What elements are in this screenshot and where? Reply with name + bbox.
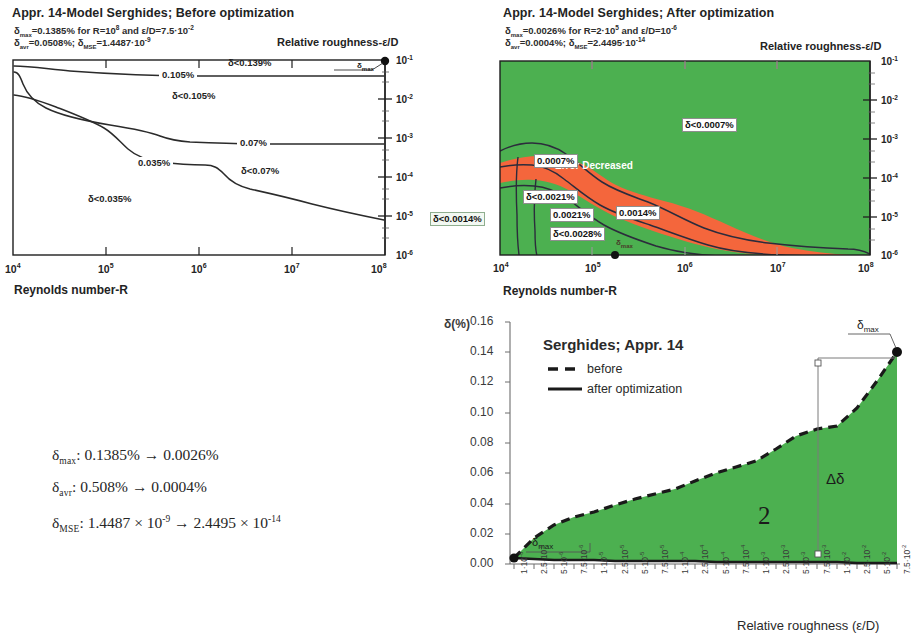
bottom-ytick-1: 0.02 xyxy=(470,526,493,540)
after-ytick-2: 10-3 xyxy=(881,133,898,145)
bottom-ytick-2: 0.04 xyxy=(470,496,493,510)
before-label-lt0139: δ<0.139% xyxy=(228,57,272,68)
bottom-delta-diff-annotation: Δδ xyxy=(826,470,844,487)
stats-exp-2: -9 xyxy=(145,36,151,43)
after-delta-avr-subscript: avr xyxy=(511,44,520,50)
before-y-axis-title: Relative roughness-ε/D xyxy=(277,36,398,48)
summary-dmse-exp1: -9 xyxy=(162,514,170,524)
summary-dmse-a: : 1.4487 × 10 xyxy=(79,514,162,531)
summary-dmse-b: → 2.4495 × 10 xyxy=(170,514,268,531)
stats-text-1a: =0.1385% for R=10 xyxy=(32,25,116,36)
after-ytick-3: 10-4 xyxy=(881,172,898,184)
before-ytick-2: 10-3 xyxy=(396,132,413,144)
bottom-ytick-3: 0.06 xyxy=(470,465,493,479)
bottom-xtick-13: 2.5·10-3 xyxy=(780,545,791,574)
before-dmax-subscript: max xyxy=(362,66,374,72)
before-xtick-0: 104 xyxy=(5,262,21,275)
bottom-xtick-18: 5·10-2 xyxy=(881,552,892,574)
after-stats-text-1a: =0.0026% for R=2·10 xyxy=(523,25,615,36)
stats-text-1b: and ε/D=7.5·10 xyxy=(119,25,188,36)
bottom-xtick-4: 1·10-5 xyxy=(598,552,609,574)
panel-after-stats-line2: δavr=0.0004%; δMSE=2.4495·10-14 xyxy=(505,36,645,50)
after-label-0014: 0.0014% xyxy=(616,206,660,220)
before-optimization-plot xyxy=(0,50,460,265)
bottom-xtick-16: 1·10-2 xyxy=(841,552,852,574)
bottom-xtick-7: 7.5·10-5 xyxy=(659,545,670,574)
panel-before-optimization: Appr. 14-Model Serghides; Before optimiz… xyxy=(0,0,460,300)
summary-dmse-subscript: MSE xyxy=(59,524,79,534)
after-ytick-1: 10-2 xyxy=(881,94,898,106)
after-stats-text-2b: =2.4495·10 xyxy=(587,37,635,48)
bottom-xtick-0: 1·10-6 xyxy=(518,552,529,574)
bottom-xtick-6: 5·10-5 xyxy=(639,552,650,574)
before-label-lt0035: δ<0.035% xyxy=(88,193,132,204)
before-ytick-5: 10-6 xyxy=(396,249,413,261)
after-label-lt0028: δ<0.0028% xyxy=(550,227,605,241)
after-label-lt0014-callout: δ<0.0014% xyxy=(430,212,485,226)
before-ytick-4: 10-5 xyxy=(396,210,413,222)
summary-davr-value: : 0.508% → 0.0004% xyxy=(72,478,207,495)
optimization-summary: δmax: 0.1385% → 0.0026% δavr: 0.508% → 0… xyxy=(52,442,412,542)
bottom-ytick-4: 0.08 xyxy=(470,435,493,449)
after-xtick-3: 107 xyxy=(770,261,786,274)
after-stats-exp-2: -14 xyxy=(636,36,645,43)
panel-after-optimization: Appr. 14-Model Serghides; After optimiza… xyxy=(492,0,911,300)
stats-exp-1b: -2 xyxy=(188,24,194,31)
after-delta-mse-subscript: MSE xyxy=(574,44,587,50)
bottom-xtick-8: 1·10-4 xyxy=(679,552,690,574)
after-ytick-5: 10-6 xyxy=(881,249,898,261)
bottom-xtick-9: 2.5·10-4 xyxy=(699,545,710,574)
after-dmax-subscript: max xyxy=(621,243,633,249)
summary-line-dmse: δMSE: 1.4487 × 10-9 → 2.4495 × 10-14 xyxy=(52,506,412,542)
bottom-xtick-1: 2.5·10-6 xyxy=(538,545,549,574)
summary-dmax-subscript: max xyxy=(59,456,76,466)
before-ytick-3: 10-4 xyxy=(396,171,413,183)
before-xtick-2: 106 xyxy=(191,262,207,275)
after-stats-exp-1b: -6 xyxy=(671,24,677,31)
after-stats-text-2a: =0.0004%; xyxy=(520,37,569,48)
after-dmax-annotation: δmax xyxy=(616,238,633,249)
bottom-area-number: 2 xyxy=(758,502,771,530)
after-label-lt0007: δ<0.0007% xyxy=(682,118,737,132)
before-label-007: 0.07% xyxy=(237,137,270,148)
before-xtick-4: 108 xyxy=(371,262,387,275)
after-label-0021: 0.0021% xyxy=(550,208,594,222)
before-xtick-1: 105 xyxy=(98,262,114,275)
panel-before-stats-line2: δavr=0.0508%; δMSE=1.4487·10-9 xyxy=(14,36,151,50)
bottom-xtick-5: 2.5·10-5 xyxy=(619,545,630,574)
before-label-0105: 0.105% xyxy=(159,69,197,80)
stats-text-2a: =0.0508%; xyxy=(29,37,78,48)
bottom-ytick-5: 0.10 xyxy=(470,405,493,419)
before-label-lt0105: δ<0.105% xyxy=(172,90,216,101)
after-stats-text-1b: and ε/D=10 xyxy=(619,25,671,36)
after-y-axis-title: Relative roughness-ε/D xyxy=(760,40,881,52)
bottom-xtick-3: 7.5·10-6 xyxy=(578,545,589,574)
after-xtick-2: 106 xyxy=(677,261,693,274)
summary-line-dmax: δmax: 0.1385% → 0.0026% xyxy=(52,442,412,474)
before-x-axis-title: Reynolds number-R xyxy=(14,283,128,297)
after-xtick-4: 108 xyxy=(858,261,874,274)
bottom-xtick-2: 5·10-6 xyxy=(558,552,569,574)
after-ytick-0: 10-1 xyxy=(881,55,898,67)
after-ytick-4: 10-5 xyxy=(881,211,898,223)
panel-after-title: Appr. 14-Model Serghides; After optimiza… xyxy=(503,6,774,20)
after-label-0007: 0.0007% xyxy=(534,154,578,168)
after-label-lt0021: δ<0.0021% xyxy=(523,190,578,204)
before-label-0035: 0.035% xyxy=(135,157,173,168)
before-xtick-3: 107 xyxy=(284,262,300,275)
summary-dmse-exp2: -14 xyxy=(268,514,281,524)
after-xtick-1: 105 xyxy=(585,261,601,274)
bottom-x-axis-title: Relative roughness (ε/D) xyxy=(737,618,879,633)
bottom-xtick-group: 1·10-6 2.5·10-6 5·10-6 7.5·10-6 1·10-5 2… xyxy=(430,300,911,390)
stats-text-2b: =1.4487·10 xyxy=(96,37,144,48)
bottom-xtick-10: 5·10-4 xyxy=(720,552,731,574)
panel-before-title: Appr. 14-Model Serghides; Before optimiz… xyxy=(12,6,294,20)
before-label-lt007: δ<0.07% xyxy=(241,165,279,176)
bottom-xtick-15: 7.5·10-3 xyxy=(821,545,832,574)
summary-dmax-value: : 0.1385% → 0.0026% xyxy=(76,446,219,463)
after-x-axis-title: Reynolds number-R xyxy=(503,284,617,298)
summary-line-davr: δavr: 0.508% → 0.0004% xyxy=(52,474,412,506)
bottom-xtick-11: 7.5·10-4 xyxy=(740,545,751,574)
bottom-xtick-14: 5·10-3 xyxy=(800,552,811,574)
bottom-xtick-19: 7.5·10-2 xyxy=(901,545,911,574)
